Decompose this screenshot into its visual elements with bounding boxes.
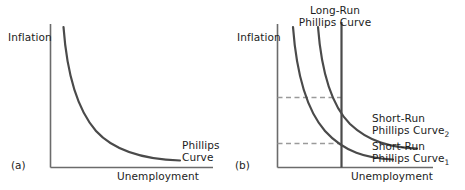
panel-b: Inflation Unemployment Long-Run Phillips… xyxy=(233,0,465,190)
panel-b-y-axis-label: Inflation xyxy=(237,31,281,44)
panel-a-x-axis-label: Unemployment xyxy=(117,170,199,183)
phillips-curve-label-line1: Phillips xyxy=(182,139,220,152)
short-run-curve-2-label-line1: Short-Run xyxy=(372,112,425,125)
short-run-curve-1-label-line1: Short-Run xyxy=(372,140,425,153)
short-run-curve-1-label-text: Phillips Curve xyxy=(372,152,445,164)
phillips-curve-figure: Inflation Unemployment Phillips Curve (a… xyxy=(0,0,465,190)
short-run-curve-1-subscript: 1 xyxy=(445,158,450,167)
short-run-curve-1-label-line2: Phillips Curve1 xyxy=(372,152,449,167)
long-run-phillips-curve-label-line2: Phillips Curve xyxy=(283,16,387,29)
panel-b-x-axis-label: Unemployment xyxy=(351,170,433,183)
panel-a-y-axis-label: Inflation xyxy=(8,31,52,44)
phillips-curve-label-line2: Curve xyxy=(182,151,213,164)
short-run-curve-2-label-line2: Phillips Curve2 xyxy=(372,124,449,139)
long-run-phillips-curve-label-line1: Long-Run xyxy=(290,4,380,17)
panel-a: Inflation Unemployment Phillips Curve (a… xyxy=(0,0,233,190)
panel-a-tag: (a) xyxy=(11,159,26,171)
panel-b-tag: (b) xyxy=(235,159,250,171)
phillips-curve-a xyxy=(64,27,181,161)
short-run-curve-2-label-text: Phillips Curve xyxy=(372,124,445,136)
short-run-curve-2-subscript: 2 xyxy=(445,130,450,139)
